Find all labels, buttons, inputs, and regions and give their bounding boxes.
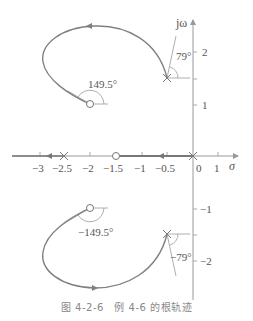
arrival-angle-label: 149.5°	[88, 78, 117, 90]
root-locus-figure: −3 −2.5 −2 −1.5 −1 −0.5 0 1 σ 2 1 −1 −2 …	[0, 0, 253, 321]
x-tick-label: −0.5	[155, 162, 175, 174]
arrow-icon	[158, 153, 164, 159]
x-tick-label: −2	[82, 162, 94, 174]
arrow-icon	[92, 285, 98, 291]
arrival-angle-label: −149.5°	[78, 226, 113, 238]
x-tick-label: −3	[32, 162, 44, 174]
lower-locus-branch: −79° −149.5°	[43, 208, 192, 291]
arrow-icon	[46, 153, 52, 159]
y-tick-label: 1	[202, 99, 208, 111]
arrow-icon	[86, 23, 92, 29]
departure-angle-label: −79°	[170, 251, 192, 263]
x-tick-label: 0	[196, 162, 202, 174]
x-axis-label: σ	[229, 159, 236, 173]
root-locus-plot: −3 −2.5 −2 −1.5 −1 −0.5 0 1 σ 2 1 −1 −2 …	[0, 0, 253, 321]
y-tick-label: −1	[200, 203, 212, 215]
y-axis-label: jω	[175, 16, 187, 30]
axes: −3 −2.5 −2 −1.5 −1 −0.5 0 1 σ 2 1 −1 −2 …	[12, 16, 238, 300]
figure-caption: 图 4-2-6 例 4-6 的根轨迹	[0, 299, 253, 314]
upper-locus-branch: 79° 149.5°	[43, 23, 192, 104]
y-tick-label: 2	[202, 46, 208, 58]
zero-marker	[87, 205, 94, 212]
x-tick-label: −1.5	[103, 162, 123, 174]
departure-angle-label: 79°	[176, 50, 191, 62]
zero-marker	[87, 101, 94, 108]
y-tick-label: −2	[200, 255, 212, 267]
zero-marker	[113, 153, 120, 160]
x-tick-label: 1	[214, 162, 220, 174]
x-tick-label: −1	[134, 162, 146, 174]
x-tick-label: −2.5	[52, 162, 72, 174]
